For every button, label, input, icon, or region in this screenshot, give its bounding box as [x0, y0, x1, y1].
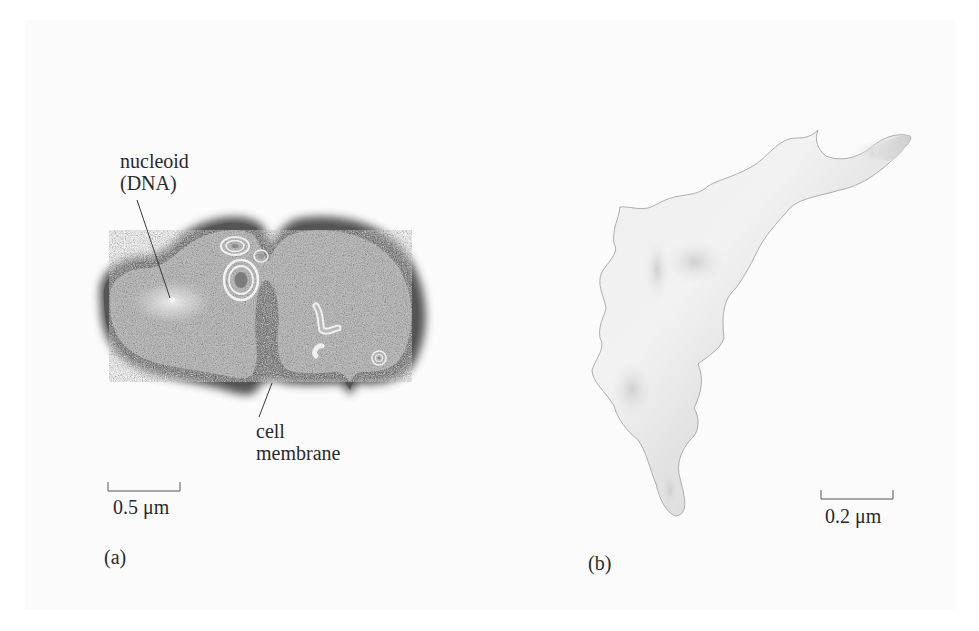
cell-b-dark-region-3	[612, 362, 652, 418]
nucleoid-label-line1: nucleoid	[120, 150, 189, 172]
cell-membrane-label-line1: cell	[256, 420, 340, 442]
scale-label-a: 0.5 μm	[113, 496, 169, 519]
inclusion-large	[224, 260, 258, 300]
membrane-leader-line	[259, 383, 272, 417]
cell-b-outline	[592, 130, 911, 516]
figure-canvas	[0, 0, 979, 631]
cell-b	[592, 130, 911, 516]
panel-label-b: (b)	[588, 552, 611, 575]
cell-b-dark-region-5	[660, 468, 680, 512]
cell-b-dark-region-1	[665, 240, 725, 284]
cell-a	[100, 216, 426, 396]
cell-b-dark-region-2	[645, 240, 669, 300]
nucleoid-label: nucleoid (DNA)	[120, 150, 189, 194]
scale-bar-b	[821, 490, 893, 499]
nucleoid-label-line2: (DNA)	[120, 172, 189, 194]
panel-label-a: (a)	[104, 546, 126, 569]
cell-membrane-label-line2: membrane	[256, 442, 340, 464]
scale-label-b: 0.2 μm	[825, 505, 881, 528]
scale-bar-a	[108, 482, 180, 491]
cell-membrane-label: cell membrane	[256, 420, 340, 464]
